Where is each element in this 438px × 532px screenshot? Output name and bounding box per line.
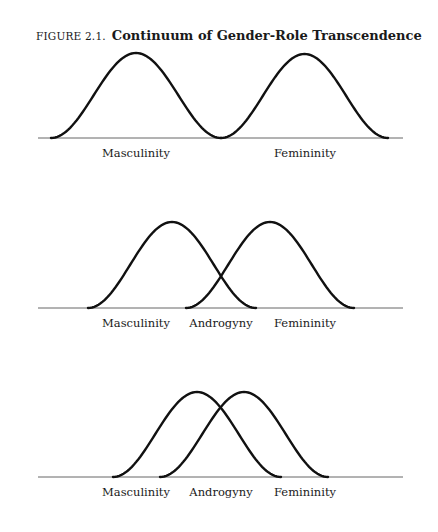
- label-masculinity: Masculinity: [102, 146, 170, 160]
- curve-masculinity: [51, 53, 221, 138]
- curve-masculinity: [113, 392, 281, 477]
- label-femininity: Femininity: [274, 316, 336, 330]
- curve-femininity: [186, 222, 354, 308]
- continuum-chart: [0, 0, 438, 532]
- panel-1: [38, 53, 403, 138]
- label-femininity: Femininity: [274, 485, 336, 499]
- label-androgyny: Androgyny: [189, 316, 252, 330]
- panel-2: [38, 222, 403, 308]
- label-masculinity: Masculinity: [102, 485, 170, 499]
- curve-femininity: [221, 54, 388, 138]
- label-masculinity: Masculinity: [102, 316, 170, 330]
- label-femininity: Femininity: [274, 146, 336, 160]
- curve-masculinity: [88, 222, 256, 308]
- label-androgyny: Androgyny: [189, 485, 252, 499]
- curve-femininity: [160, 392, 328, 477]
- panel-3: [38, 392, 403, 477]
